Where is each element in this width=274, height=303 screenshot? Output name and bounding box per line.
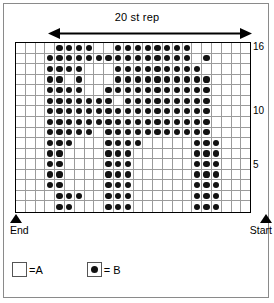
- cell-a[interactable]: [241, 106, 250, 117]
- cell-b[interactable]: [124, 191, 134, 202]
- cell-b[interactable]: [134, 128, 144, 139]
- cell-a[interactable]: [222, 85, 232, 96]
- cell-a[interactable]: [26, 191, 36, 202]
- cell-a[interactable]: [65, 159, 75, 170]
- cell-b[interactable]: [134, 75, 144, 86]
- cell-b[interactable]: [153, 106, 163, 117]
- cell-a[interactable]: [183, 201, 193, 212]
- cell-b[interactable]: [104, 117, 114, 128]
- cell-b[interactable]: [45, 159, 55, 170]
- cell-a[interactable]: [104, 64, 114, 75]
- cell-b[interactable]: [143, 85, 153, 96]
- cell-a[interactable]: [241, 64, 250, 75]
- cell-a[interactable]: [26, 201, 36, 212]
- cell-b[interactable]: [202, 96, 212, 107]
- cell-a[interactable]: [202, 64, 212, 75]
- cell-b[interactable]: [173, 54, 183, 65]
- cell-b[interactable]: [212, 138, 222, 149]
- cell-a[interactable]: [222, 180, 232, 191]
- cell-b[interactable]: [202, 159, 212, 170]
- cell-a[interactable]: [65, 180, 75, 191]
- cell-a[interactable]: [241, 117, 250, 128]
- cell-a[interactable]: [26, 117, 36, 128]
- cell-a[interactable]: [241, 54, 250, 65]
- cell-b[interactable]: [114, 75, 124, 86]
- cell-b[interactable]: [45, 85, 55, 96]
- stitch-grid[interactable]: [15, 42, 251, 213]
- cell-b[interactable]: [163, 106, 173, 117]
- cell-a[interactable]: [36, 128, 46, 139]
- cell-a[interactable]: [36, 180, 46, 191]
- cell-b[interactable]: [202, 149, 212, 160]
- cell-b[interactable]: [183, 96, 193, 107]
- cell-b[interactable]: [55, 85, 65, 96]
- cell-b[interactable]: [114, 43, 124, 54]
- cell-b[interactable]: [104, 128, 114, 139]
- cell-a[interactable]: [94, 64, 104, 75]
- cell-a[interactable]: [222, 159, 232, 170]
- cell-b[interactable]: [55, 191, 65, 202]
- cell-b[interactable]: [202, 75, 212, 86]
- cell-a[interactable]: [26, 106, 36, 117]
- cell-a[interactable]: [173, 149, 183, 160]
- cell-a[interactable]: [65, 170, 75, 181]
- cell-a[interactable]: [222, 128, 232, 139]
- cell-a[interactable]: [26, 128, 36, 139]
- cell-b[interactable]: [94, 106, 104, 117]
- cell-b[interactable]: [163, 85, 173, 96]
- cell-b[interactable]: [153, 96, 163, 107]
- cell-a[interactable]: [75, 149, 85, 160]
- cell-b[interactable]: [183, 106, 193, 117]
- cell-a[interactable]: [85, 138, 95, 149]
- cell-b[interactable]: [65, 43, 75, 54]
- cell-b[interactable]: [212, 201, 222, 212]
- cell-b[interactable]: [183, 117, 193, 128]
- cell-a[interactable]: [232, 106, 242, 117]
- cell-b[interactable]: [183, 85, 193, 96]
- cell-b[interactable]: [173, 75, 183, 86]
- cell-a[interactable]: [163, 159, 173, 170]
- cell-a[interactable]: [222, 170, 232, 181]
- cell-b[interactable]: [114, 170, 124, 181]
- cell-b[interactable]: [114, 201, 124, 212]
- cell-a[interactable]: [94, 128, 104, 139]
- cell-b[interactable]: [104, 85, 114, 96]
- cell-a[interactable]: [212, 85, 222, 96]
- cell-b[interactable]: [114, 117, 124, 128]
- cell-b[interactable]: [85, 117, 95, 128]
- cell-a[interactable]: [173, 201, 183, 212]
- cell-b[interactable]: [45, 75, 55, 86]
- cell-b[interactable]: [104, 96, 114, 107]
- cell-b[interactable]: [55, 117, 65, 128]
- cell-b[interactable]: [124, 85, 134, 96]
- cell-a[interactable]: [16, 85, 26, 96]
- cell-a[interactable]: [212, 75, 222, 86]
- cell-b[interactable]: [124, 149, 134, 160]
- cell-a[interactable]: [241, 201, 250, 212]
- cell-b[interactable]: [75, 191, 85, 202]
- cell-a[interactable]: [75, 138, 85, 149]
- cell-a[interactable]: [232, 96, 242, 107]
- cell-b[interactable]: [192, 201, 202, 212]
- cell-a[interactable]: [173, 159, 183, 170]
- cell-a[interactable]: [36, 170, 46, 181]
- cell-a[interactable]: [36, 54, 46, 65]
- cell-b[interactable]: [55, 54, 65, 65]
- cell-b[interactable]: [104, 170, 114, 181]
- cell-b[interactable]: [75, 106, 85, 117]
- cell-b[interactable]: [75, 128, 85, 139]
- cell-a[interactable]: [85, 64, 95, 75]
- cell-a[interactable]: [26, 85, 36, 96]
- cell-b[interactable]: [202, 170, 212, 181]
- cell-a[interactable]: [241, 180, 250, 191]
- cell-a[interactable]: [153, 180, 163, 191]
- cell-b[interactable]: [202, 85, 212, 96]
- cell-b[interactable]: [183, 75, 193, 86]
- cell-a[interactable]: [16, 117, 26, 128]
- cell-b[interactable]: [163, 54, 173, 65]
- cell-b[interactable]: [173, 85, 183, 96]
- cell-b[interactable]: [94, 117, 104, 128]
- cell-b[interactable]: [45, 64, 55, 75]
- cell-b[interactable]: [75, 85, 85, 96]
- cell-a[interactable]: [65, 75, 75, 86]
